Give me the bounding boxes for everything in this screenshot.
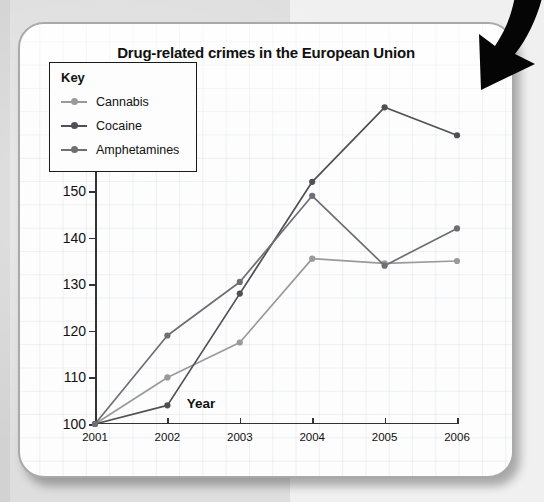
data-point: [454, 132, 460, 138]
legend-key-box: Key CannabisCocaineAmphetamines: [49, 62, 197, 172]
data-point: [237, 279, 243, 285]
legend-title: Key: [61, 70, 187, 85]
data-point: [454, 225, 460, 231]
legend-entries: CannabisCocaineAmphetamines: [61, 90, 187, 162]
chart-card: Drug-related crimes in the European Unio…: [18, 22, 514, 478]
data-point: [382, 263, 388, 269]
legend-label: Cannabis: [96, 95, 149, 109]
legend-label: Amphetamines: [96, 143, 179, 157]
data-point: [454, 258, 460, 264]
data-point: [164, 332, 170, 338]
legend-marker-icon: [61, 144, 87, 156]
x-tick: [457, 418, 459, 424]
data-point: [164, 402, 170, 408]
x-tick-label: 2006: [444, 431, 470, 443]
series-line: [95, 259, 457, 424]
x-axis-title: Year: [187, 396, 216, 411]
y-tick-label: 140: [63, 230, 86, 246]
x-tick-label: 2001: [82, 431, 108, 443]
x-tick-label: 2004: [299, 431, 325, 443]
legend-entry: Cannabis: [61, 90, 187, 114]
legend-label: Cocaine: [96, 119, 142, 133]
x-tick-label: 2003: [227, 431, 253, 443]
data-point: [382, 104, 388, 110]
data-point: [309, 179, 315, 185]
legend-entry: Cocaine: [61, 114, 187, 138]
legend-marker-icon: [61, 96, 87, 108]
chart-title: Drug-related crimes in the European Unio…: [20, 44, 512, 61]
y-tick-label: 150: [63, 183, 86, 199]
data-point: [237, 291, 243, 297]
y-tick-label: 130: [63, 276, 86, 292]
y-tick-label: 110: [64, 369, 86, 385]
x-tick-label: 2002: [155, 431, 181, 443]
data-point: [164, 374, 170, 380]
data-point: [309, 256, 315, 262]
legend-marker-icon: [61, 120, 87, 132]
legend-entry: Amphetamines: [61, 138, 187, 162]
data-point: [237, 339, 243, 345]
x-tick-label: 2005: [372, 431, 398, 443]
data-point: [309, 193, 315, 199]
data-point: [92, 421, 98, 427]
y-tick-label: 120: [63, 323, 86, 339]
y-tick-label: 100: [63, 416, 86, 432]
